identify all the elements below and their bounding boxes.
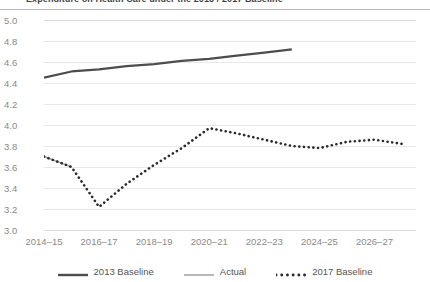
y-axis-tick-label: 4.8 <box>4 36 36 47</box>
legend-item[interactable]: 2017 Baseline <box>276 266 372 277</box>
x-axis-tick-label: 2020–21 <box>191 236 228 247</box>
y-axis-tick-label: 4.2 <box>4 99 36 110</box>
chart-container: Expenditure on Health Care under the 201… <box>0 0 430 282</box>
y-axis-tick-label: 4.4 <box>4 78 36 89</box>
y-axis-tick-label: 3.2 <box>4 204 36 215</box>
legend-label: 2017 Baseline <box>312 266 372 277</box>
y-axis-tick-label: 4.0 <box>4 120 36 131</box>
chart-title: Expenditure on Health Care under the 201… <box>26 0 283 4</box>
legend-item[interactable]: Actual <box>184 266 246 277</box>
series-line <box>44 49 292 77</box>
x-axis-tick-label: 2022–23 <box>246 236 283 247</box>
y-axis-tick-label: 3.8 <box>4 141 36 152</box>
legend-label: Actual <box>220 266 246 277</box>
y-axis-tick-label: 3.0 <box>4 225 36 236</box>
legend-item[interactable]: 2013 Baseline <box>58 266 154 277</box>
y-axis-tick-label: 4.6 <box>4 57 36 68</box>
x-axis-tick-label: 2014–15 <box>26 236 63 247</box>
legend-label: 2013 Baseline <box>94 266 154 277</box>
y-axis-tick-label: 3.6 <box>4 162 36 173</box>
solid-line-swatch-gray <box>184 266 214 276</box>
title-divider <box>0 9 430 10</box>
series-layer <box>44 20 416 232</box>
solid-line-swatch-dark <box>58 266 88 276</box>
x-axis-tick-label: 2026–27 <box>356 236 393 247</box>
series-line <box>44 128 402 207</box>
chart-legend: 2013 BaselineActual2017 Baseline <box>0 262 430 280</box>
x-axis-tick-label: 2018–19 <box>136 236 173 247</box>
y-axis-tick-label: 5.0 <box>4 15 36 26</box>
x-axis-tick-label: 2024–25 <box>301 236 338 247</box>
x-axis-tick-label: 2016–17 <box>81 236 118 247</box>
y-axis-tick-label: 3.4 <box>4 183 36 194</box>
dotted-line-swatch-dark <box>276 266 306 276</box>
